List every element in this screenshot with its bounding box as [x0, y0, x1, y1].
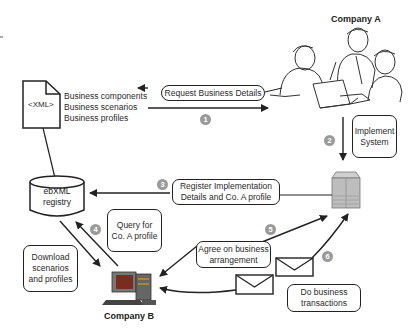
step6-badge: 6 — [322, 251, 333, 262]
company-b-title: Company B — [104, 311, 154, 321]
step6-transactions-box: Do businesstransactions — [287, 284, 361, 312]
step4-badge: 4 — [90, 224, 101, 235]
step5-line2: arrangement — [198, 255, 268, 266]
step4-line2: Co. A profile — [112, 231, 158, 242]
step3-line1: Register Implementation — [180, 181, 272, 192]
download-line1: Download — [29, 252, 73, 263]
download-line2: scenarios — [29, 263, 73, 274]
step3-line2: Details and Co. A profile — [180, 192, 272, 203]
step6-line2: transactions — [301, 298, 348, 309]
step5-arrow-to-b — [160, 246, 197, 276]
step1-badge: 1 — [200, 114, 211, 125]
company-a-people-illustration — [270, 28, 402, 108]
registry-line1: ebXML — [36, 186, 78, 197]
step2-line2: System — [355, 137, 395, 148]
step3-register-box: Register ImplementationDetails and Co. A… — [172, 179, 280, 205]
registry-label: ebXML registry — [36, 186, 78, 208]
step5-agree-box: Agree on businessarrangement — [196, 241, 271, 268]
business-profiles-label: Business profiles — [64, 113, 128, 124]
registry-line2: registry — [36, 197, 78, 208]
step6-line1: Do business — [301, 287, 348, 298]
envelope-icon-1 — [276, 258, 313, 276]
step5-line1: Agree on business — [198, 244, 268, 255]
step2-implement-box: ImplementSystem — [352, 115, 397, 158]
step3-badge: 3 — [157, 179, 168, 190]
step1-label: Request Business Details — [165, 88, 262, 99]
download-box: Downloadscenariosand profiles — [23, 245, 78, 292]
business-components-label: Business components — [64, 91, 147, 102]
business-scenarios-label: Business scenarios — [64, 102, 137, 113]
step2-badge: 2 — [324, 135, 335, 146]
company-b-computer-icon — [102, 272, 156, 305]
envelope-icon-2 — [236, 275, 273, 294]
step4-query-box: Query forCo. A profile — [107, 209, 162, 252]
step1-request-box: Request Business Details — [161, 85, 265, 101]
step1-connector — [265, 88, 282, 92]
step5-badge: 5 — [265, 224, 276, 235]
doc-registry-link — [43, 128, 55, 178]
company-a-title: Company A — [331, 14, 381, 24]
download-line3: and profiles — [29, 274, 73, 285]
server-icon — [332, 172, 360, 208]
xml-doc-label: <XML> — [28, 99, 54, 110]
step6-arrow-to-b — [160, 288, 236, 293]
step4-line1: Query for — [112, 220, 158, 231]
step2-line1: Implement — [355, 126, 395, 137]
